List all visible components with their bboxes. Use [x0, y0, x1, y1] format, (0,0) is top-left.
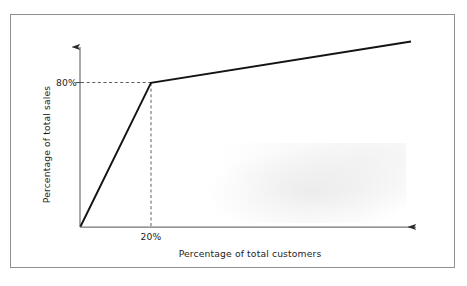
y-tick-label-80: 80% — [53, 77, 77, 88]
pareto-chart-plot — [0, 0, 467, 286]
x-tick-label-20: 20% — [131, 231, 171, 242]
figure-root: 80% 20% Percentage of total sales Percen… — [0, 0, 467, 286]
pareto-curve — [81, 42, 412, 227]
x-axis-title: Percentage of total customers — [177, 248, 323, 259]
y-axis-title: Percentage of total sales — [41, 83, 52, 207]
